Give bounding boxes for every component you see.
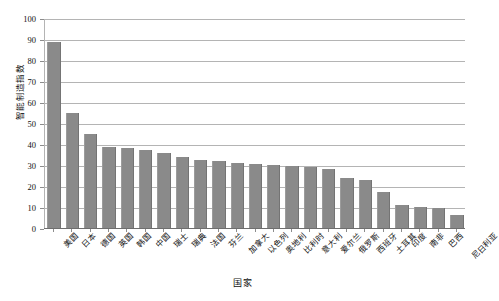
bar [340,178,353,228]
bar [139,150,152,228]
y-tick-label: 30 [28,162,37,171]
x-tick-label: 巴西 [447,232,464,249]
x-tick-label: 芬兰 [228,232,245,249]
bar [102,147,115,229]
x-tick-label: 尼日利亚 [470,232,499,261]
x-tick-label: 法国 [209,232,226,249]
bar [231,163,244,228]
bar [267,165,280,228]
bar [84,134,97,228]
x-axis-title: 国家 [0,276,485,289]
y-tick-label: 60 [28,99,37,108]
x-tick-label: 加拿大 [248,232,271,255]
x-tick-label: 美国 [63,232,80,249]
bar [176,157,189,228]
x-tick-label: 瑞士 [173,232,190,249]
bar [47,42,60,228]
bar [194,160,207,228]
y-tick-label: 10 [28,204,37,213]
bar [285,166,298,228]
x-tick-label: 英国 [118,232,135,249]
bar [121,148,134,228]
x-tick-label: 德国 [100,232,117,249]
x-tick-label: 中国 [154,232,171,249]
bar [249,164,262,228]
x-tick-label: 瑞典 [191,232,208,249]
y-tick-label: 20 [28,183,37,192]
plot-area [44,19,465,229]
y-tick-label: 40 [28,141,37,150]
y-tick-label: 70 [28,78,37,87]
bar [450,215,463,228]
y-tick-label: 90 [28,36,37,45]
bar [432,208,445,228]
bar [395,205,408,228]
y-axis-ticks: 0102030405060708090100 [0,0,44,301]
bar [212,161,225,228]
bar [304,167,317,228]
x-tick-label: 南非 [429,232,446,249]
bar [66,113,79,228]
y-tick-label: 100 [23,15,36,24]
bar [359,180,372,228]
bar [414,207,427,228]
y-tick-label: 80 [28,57,37,66]
bar [157,153,170,228]
bar-series [44,19,465,228]
y-tick-label: 50 [28,120,37,129]
x-tick-label: 日本 [81,232,98,249]
bar [322,169,335,228]
x-tick-label: 韩国 [136,232,153,249]
y-tick-label: 0 [32,225,36,234]
bar [377,192,390,228]
